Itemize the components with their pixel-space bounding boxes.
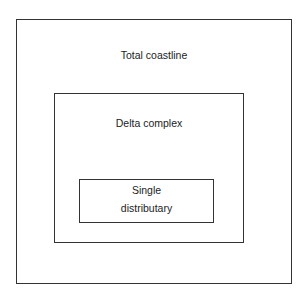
- total-coastline-label: Total coastline: [16, 48, 292, 63]
- single-distributary-label-line1: Single: [79, 183, 214, 198]
- delta-complex-label: Delta complex: [54, 116, 244, 131]
- single-distributary-label-line2: distributary: [79, 201, 214, 216]
